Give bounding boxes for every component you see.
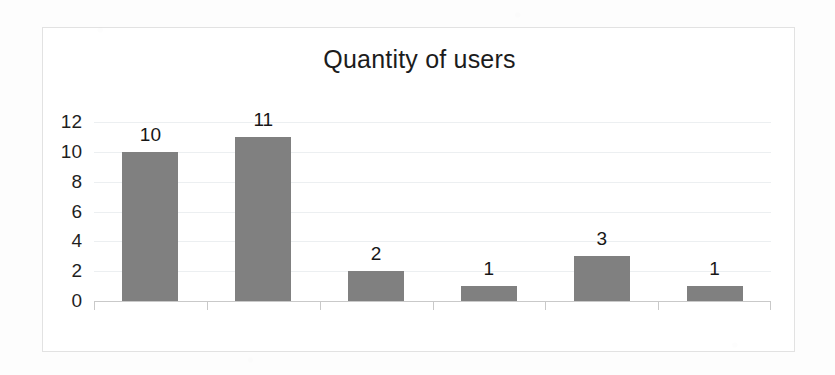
y-axis-tick-label: 4 (71, 230, 82, 252)
y-axis-tick-label: 6 (71, 201, 82, 223)
chart-screenshot: Quantity of users 024681012103 to 7 user… (0, 0, 835, 375)
x-axis-tick (94, 301, 95, 310)
gridline-4 (94, 241, 771, 242)
bar-value-label: 11 (253, 109, 273, 131)
y-axis-tick-label: 12 (61, 111, 82, 133)
plot-area: 024681012103 to 7 users118 to 12 users21… (94, 122, 771, 301)
x-axis-tick (433, 301, 434, 310)
bar[interactable] (348, 271, 404, 301)
bar-value-label: 1 (484, 258, 495, 280)
x-axis-tick (770, 301, 771, 310)
bar[interactable] (235, 137, 291, 301)
x-axis-tick (320, 301, 321, 310)
bar[interactable] (687, 286, 743, 301)
y-axis-tick-label: 8 (71, 171, 82, 193)
x-axis-tick (658, 301, 659, 310)
chart-title: Quantity of users (43, 45, 796, 74)
bar[interactable] (461, 286, 517, 301)
y-axis-tick-label: 10 (61, 141, 82, 163)
gridline-10 (94, 152, 771, 153)
chart-frame: Quantity of users 024681012103 to 7 user… (42, 27, 795, 352)
gridline-12 (94, 122, 771, 123)
y-axis-tick-label: 2 (71, 260, 82, 282)
gridline-8 (94, 182, 771, 183)
gridline-2 (94, 271, 771, 272)
bar-value-label: 1 (709, 258, 720, 280)
bar-value-label: 3 (596, 228, 607, 250)
bar-value-label: 10 (140, 124, 161, 146)
x-axis-tick (207, 301, 208, 310)
x-axis-tick (545, 301, 546, 310)
y-axis-tick-label: 0 (71, 290, 82, 312)
bar[interactable] (574, 256, 630, 301)
gridline-6 (94, 212, 771, 213)
bar-value-label: 2 (371, 243, 382, 265)
bar[interactable] (122, 152, 178, 301)
